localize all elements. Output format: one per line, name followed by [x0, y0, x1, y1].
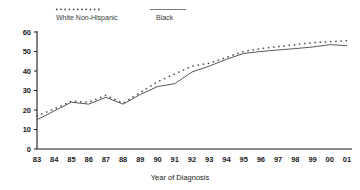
white-non-hispanic-dot — [178, 71, 180, 73]
white-non-hispanic-dot — [150, 85, 152, 87]
y-axis-tick-labels: 0102030405060 — [23, 28, 31, 154]
white-non-hispanic-dot — [146, 88, 148, 90]
x-axis-tick-label: 87 — [102, 155, 110, 164]
legend-dot — [85, 9, 87, 11]
x-axis-tick-label: 94 — [222, 155, 231, 164]
white-non-hispanic-dot — [75, 101, 77, 103]
legend-dot — [60, 9, 62, 11]
chart-legend: White Non-Hispanic Black — [56, 9, 186, 22]
white-non-hispanic-dot — [56, 107, 58, 109]
x-axis-tick-label: 88 — [119, 155, 127, 164]
line-chart: White Non-Hispanic Black 0102030405060 8… — [0, 0, 360, 190]
white-non-hispanic-dot — [340, 40, 342, 42]
white-non-hispanic-dot — [208, 63, 210, 65]
white-non-hispanic-dot — [227, 56, 229, 58]
white-non-hispanic-dot — [237, 53, 239, 55]
white-non-hispanic-dot — [65, 103, 67, 105]
white-non-hispanic-dot — [325, 41, 327, 43]
white-non-hispanic-dot — [218, 59, 220, 61]
x-axis-tick-label: 97 — [274, 155, 282, 164]
white-non-hispanic-dot — [141, 91, 143, 93]
y-axis-tick-label: 10 — [23, 125, 31, 134]
white-non-hispanic-dot — [124, 102, 126, 104]
white-non-hispanic-dot — [60, 105, 62, 107]
white-non-hispanic-dot — [247, 50, 249, 52]
white-non-hispanic-dot — [110, 97, 112, 99]
legend-dot — [81, 9, 83, 11]
x-axis-tick-label: 84 — [50, 155, 59, 164]
white-non-hispanic-dot — [128, 99, 130, 101]
white-non-hispanic-dot — [132, 96, 134, 98]
white-non-hispanic-dot — [95, 99, 97, 101]
axis-lines — [37, 31, 352, 149]
white-non-hispanic-dot — [46, 111, 48, 113]
white-non-hispanic-dot — [105, 95, 107, 97]
legend-dot — [77, 9, 79, 11]
white-non-hispanic-dot — [335, 41, 337, 43]
white-non-hispanic-dot — [137, 93, 139, 95]
white-non-hispanic-dot — [169, 76, 171, 78]
white-non-hispanic-dot — [183, 69, 185, 71]
y-axis-tick-label: 50 — [23, 47, 31, 56]
dotted-line-marker — [56, 9, 100, 11]
white-non-hispanic-dot — [70, 101, 72, 103]
white-non-hispanic-dot — [268, 47, 270, 49]
x-axis-tick-label: 98 — [291, 155, 299, 164]
x-axis-tick-label: 00 — [326, 155, 334, 164]
x-axis-tick-label: 86 — [84, 155, 92, 164]
chart-container: White Non-Hispanic Black 0102030405060 8… — [0, 0, 360, 190]
x-axis-tick-label: 91 — [171, 155, 179, 164]
white-non-hispanic-dot — [330, 41, 332, 43]
x-axis-tick-label: 92 — [188, 155, 196, 164]
x-axis-tick-label: 83 — [33, 155, 41, 164]
white-non-hispanic-dot — [119, 101, 121, 103]
white-non-hispanic-dot — [192, 65, 194, 67]
white-non-hispanic-dot — [304, 43, 306, 45]
white-non-hispanic-dot — [51, 109, 53, 111]
x-axis-tick-label: 85 — [67, 155, 75, 164]
legend-dot — [69, 9, 71, 11]
white-non-hispanic-dot — [299, 43, 301, 45]
white-non-hispanic-dot — [242, 51, 244, 53]
x-axis-tick-label: 90 — [153, 155, 161, 164]
legend-dot — [64, 9, 66, 11]
white-non-hispanic-dot — [258, 48, 260, 50]
white-non-hispanic-dot — [309, 42, 311, 44]
legend-label-white-non-hispanic: White Non-Hispanic — [56, 14, 118, 22]
legend-dot — [56, 9, 58, 11]
black-line — [37, 45, 347, 120]
y-axis-tick-label: 20 — [23, 106, 31, 115]
x-axis-title: Year of Diagnosis — [151, 173, 210, 182]
white-non-hispanic-dot — [263, 48, 265, 50]
white-non-hispanic-dot — [320, 42, 322, 44]
legend-dot — [73, 9, 75, 11]
x-axis-tick-label: 99 — [308, 155, 316, 164]
white-non-hispanic-dot — [159, 80, 161, 82]
y-axis-tick-label: 40 — [23, 67, 31, 76]
white-non-hispanic-dot — [252, 49, 254, 51]
white-non-hispanic-dot — [232, 54, 234, 56]
series-black — [37, 45, 347, 120]
white-non-hispanic-dot — [294, 44, 296, 46]
legend-dot — [94, 9, 96, 11]
white-non-hispanic-dot — [283, 45, 285, 47]
x-axis-tick-label: 01 — [343, 155, 351, 164]
y-axis-tick-label: 60 — [23, 28, 31, 37]
series-white-non-hispanic — [36, 40, 347, 117]
white-non-hispanic-dot — [289, 45, 291, 47]
y-axis-tick-label: 0 — [27, 145, 31, 154]
white-non-hispanic-dot — [41, 113, 43, 115]
white-non-hispanic-dot — [188, 67, 190, 69]
white-non-hispanic-dot — [278, 46, 280, 48]
white-non-hispanic-dot — [203, 63, 205, 64]
x-axis-tick-label: 95 — [239, 155, 247, 164]
white-non-hispanic-dot — [90, 101, 92, 103]
white-non-hispanic-dot — [223, 58, 225, 60]
white-non-hispanic-dot — [114, 99, 116, 101]
white-non-hispanic-dot — [155, 82, 157, 84]
x-axis-tick-labels: 83848586878889909192939495969798990001 — [33, 155, 351, 164]
x-axis-tick-label: 93 — [205, 155, 213, 164]
white-non-hispanic-dot — [100, 97, 102, 99]
white-non-hispanic-dot — [197, 64, 199, 66]
white-non-hispanic-dot — [164, 78, 166, 80]
